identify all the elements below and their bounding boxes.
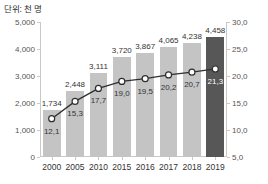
line-marker[interactable] (166, 72, 172, 78)
line-marker[interactable] (72, 98, 78, 104)
bar-value-label: 1,734 (42, 99, 62, 108)
left-axis-tick (37, 76, 40, 77)
line-marker[interactable] (49, 116, 55, 122)
left-axis-tick (37, 22, 40, 23)
x-axis-tick (215, 157, 216, 160)
left-axis-label: 2,000 (15, 99, 35, 108)
bar-value-label: 4,065 (159, 36, 179, 45)
right-axis-tick (227, 49, 230, 50)
x-axis-label: 2016 (136, 162, 155, 172)
bar-value-label: 3,867 (135, 42, 155, 51)
x-axis-tick (75, 157, 76, 160)
line-value-label: 15,3 (67, 109, 83, 118)
right-axis-tick (227, 130, 230, 131)
line-marker[interactable] (212, 66, 218, 72)
chart-container: 단위: 천 명 1,73412,12,44815,33,11117,73,720… (0, 0, 268, 184)
x-axis-label: 2018 (182, 162, 201, 172)
x-axis-label: 2017 (159, 162, 178, 172)
x-axis-tick (145, 157, 146, 160)
x-axis-tick (98, 157, 99, 160)
line-value-label: 19,0 (114, 89, 130, 98)
right-axis-tick (227, 22, 230, 23)
line-marker[interactable] (119, 78, 125, 84)
left-axis-label: 5,000 (15, 18, 35, 27)
x-axis-label: 2019 (206, 162, 225, 172)
right-axis-label: 20,0 (232, 72, 248, 81)
line-value-label: 17,7 (91, 96, 107, 105)
x-axis-tick (122, 157, 123, 160)
right-axis-tick (227, 103, 230, 104)
line-value-label: 19,5 (137, 87, 153, 96)
x-axis-tick (192, 157, 193, 160)
right-axis-label: 10,0 (232, 126, 248, 135)
line-series (40, 22, 227, 157)
x-axis-label: 2000 (42, 162, 61, 172)
x-axis-label: 2005 (66, 162, 85, 172)
x-axis-label: 2010 (89, 162, 108, 172)
left-axis-label: 3,000 (15, 72, 35, 81)
left-axis-tick (37, 130, 40, 131)
line-marker[interactable] (95, 85, 101, 91)
x-axis-tick (169, 157, 170, 160)
line-marker[interactable] (189, 69, 195, 75)
left-axis-tick (37, 103, 40, 104)
left-axis-label: 1,000 (15, 126, 35, 135)
line-value-label: 12,1 (44, 127, 60, 136)
x-axis-label: 2015 (112, 162, 131, 172)
left-axis-label: 4,000 (15, 45, 35, 54)
left-axis-tick (37, 49, 40, 50)
right-axis-label: 5,0 (232, 153, 243, 162)
right-axis-label: 30,0 (232, 18, 248, 27)
bar-value-label: 4,458 (205, 26, 225, 35)
right-axis-label: 15,0 (232, 99, 248, 108)
x-axis-tick (52, 157, 53, 160)
bar-value-label: 3,720 (112, 46, 132, 55)
line-value-label: 20,7 (184, 80, 200, 89)
left-axis-tick (37, 157, 40, 158)
plot-area: 1,73412,12,44815,33,11117,73,72019,03,86… (40, 22, 227, 157)
right-axis-tick (227, 157, 230, 158)
line-value-label: 20,2 (161, 83, 177, 92)
line-marker[interactable] (142, 76, 148, 82)
bar-value-label: 4,238 (182, 32, 202, 41)
chart-unit-title: 단위: 천 명 (4, 2, 42, 14)
left-axis-label: 0 (31, 153, 35, 162)
line-value-label: 21,3 (208, 77, 224, 86)
bar-value-label: 2,448 (65, 80, 85, 89)
right-axis-label: 25,0 (232, 45, 248, 54)
right-axis-tick (227, 76, 230, 77)
bar-value-label: 3,111 (89, 62, 108, 71)
